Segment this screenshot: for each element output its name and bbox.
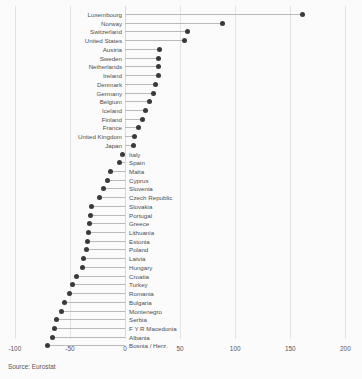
- chart-row[interactable]: Sweden: [0, 54, 362, 63]
- chart-row[interactable]: Austria: [0, 45, 362, 54]
- chart-row[interactable]: United Kingdom: [0, 132, 362, 141]
- chart-row[interactable]: France: [0, 123, 362, 132]
- data-point[interactable]: [74, 274, 79, 279]
- chart-row[interactable]: Portugal: [0, 211, 362, 220]
- data-point[interactable]: [157, 47, 162, 52]
- chart-row[interactable]: Ireland: [0, 71, 362, 80]
- data-point[interactable]: [156, 73, 161, 78]
- data-point[interactable]: [132, 134, 137, 139]
- chart-row[interactable]: Estonia: [0, 237, 362, 246]
- category-label: France: [0, 123, 122, 132]
- data-point[interactable]: [50, 335, 55, 340]
- data-point[interactable]: [84, 247, 89, 252]
- data-point[interactable]: [52, 326, 57, 331]
- data-point[interactable]: [81, 256, 86, 261]
- data-point[interactable]: [185, 29, 190, 34]
- chart-row[interactable]: Norway: [0, 19, 362, 28]
- data-point[interactable]: [67, 291, 72, 296]
- category-label: Denmark: [0, 80, 122, 89]
- data-point[interactable]: [156, 56, 161, 61]
- chart-row[interactable]: Germany: [0, 89, 362, 98]
- chart-row[interactable]: Cyprus: [0, 176, 362, 185]
- chart-row[interactable]: Netherlands: [0, 62, 362, 71]
- data-point[interactable]: [87, 221, 92, 226]
- data-point[interactable]: [117, 160, 122, 165]
- data-point[interactable]: [89, 204, 94, 209]
- chart-row[interactable]: Croatia: [0, 272, 362, 281]
- chart-row[interactable]: Greece: [0, 219, 362, 228]
- chart-row[interactable]: Denmark: [0, 80, 362, 89]
- chart-row[interactable]: Lithuania: [0, 228, 362, 237]
- data-point[interactable]: [182, 38, 187, 43]
- data-point[interactable]: [88, 213, 93, 218]
- plot-area: LuxembourgNorwaySwitzerlandUnited States…: [0, 0, 362, 345]
- chart-row[interactable]: F Y R Macedonia: [0, 324, 362, 333]
- data-point[interactable]: [136, 125, 141, 130]
- data-point[interactable]: [220, 21, 225, 26]
- data-point[interactable]: [85, 239, 90, 244]
- x-tick-label: -50: [50, 345, 90, 352]
- stem-line: [125, 40, 185, 41]
- chart-row[interactable]: Albania: [0, 333, 362, 342]
- data-point[interactable]: [300, 12, 305, 17]
- chart-row[interactable]: Hungary: [0, 263, 362, 272]
- chart-row[interactable]: Turkey: [0, 280, 362, 289]
- data-point[interactable]: [86, 230, 91, 235]
- category-label: Iceland: [0, 106, 122, 115]
- chart-row[interactable]: Belgium: [0, 97, 362, 106]
- category-label: Austria: [0, 45, 122, 54]
- stem-line: [125, 101, 149, 102]
- chart-row[interactable]: Luxembourg: [0, 10, 362, 19]
- stem-line: [125, 23, 222, 24]
- stem-line: [72, 284, 125, 285]
- chart-row[interactable]: Slovenia: [0, 184, 362, 193]
- chart-row[interactable]: Bulgaria: [0, 298, 362, 307]
- category-label: Italy: [129, 150, 140, 159]
- category-label: Albania: [129, 333, 150, 342]
- data-point[interactable]: [108, 169, 113, 174]
- category-label: Romania: [129, 289, 154, 298]
- chart-row[interactable]: Slovakia: [0, 202, 362, 211]
- chart-row[interactable]: Czech Republic: [0, 193, 362, 202]
- data-point[interactable]: [70, 282, 75, 287]
- data-point[interactable]: [105, 178, 110, 183]
- chart-row[interactable]: Romania: [0, 289, 362, 298]
- data-point[interactable]: [120, 152, 125, 157]
- category-label: Sweden: [0, 54, 122, 63]
- data-point[interactable]: [101, 186, 106, 191]
- stem-line: [125, 31, 188, 32]
- data-point[interactable]: [97, 195, 102, 200]
- data-point[interactable]: [80, 265, 85, 270]
- chart-row[interactable]: Malta: [0, 167, 362, 176]
- stem-line: [125, 58, 158, 59]
- chart-row[interactable]: Switzerland: [0, 27, 362, 36]
- data-point[interactable]: [147, 99, 152, 104]
- category-label: Latvia: [129, 254, 146, 263]
- data-point[interactable]: [153, 82, 158, 87]
- stem-line: [83, 258, 125, 259]
- chart-row[interactable]: Serbia: [0, 315, 362, 324]
- chart-row[interactable]: Montenegro: [0, 307, 362, 316]
- chart-row[interactable]: Spain: [0, 158, 362, 167]
- data-point[interactable]: [54, 317, 59, 322]
- chart-row[interactable]: Japan: [0, 141, 362, 150]
- chart-row[interactable]: Poland: [0, 245, 362, 254]
- category-label: Slovenia: [129, 184, 153, 193]
- chart-row[interactable]: Latvia: [0, 254, 362, 263]
- chart-row[interactable]: Italy: [0, 150, 362, 159]
- chart-row[interactable]: Iceland: [0, 106, 362, 115]
- stem-line: [125, 66, 158, 67]
- chart-row[interactable]: United States: [0, 36, 362, 45]
- data-point[interactable]: [151, 91, 156, 96]
- chart-row[interactable]: Finland: [0, 115, 362, 124]
- stem-line: [64, 302, 125, 303]
- category-label: Montenegro: [129, 307, 162, 316]
- stem-line: [125, 14, 302, 15]
- data-point[interactable]: [140, 117, 145, 122]
- data-point[interactable]: [62, 300, 67, 305]
- data-point[interactable]: [156, 64, 161, 69]
- data-point[interactable]: [143, 108, 148, 113]
- data-point[interactable]: [131, 143, 136, 148]
- data-point[interactable]: [59, 309, 64, 314]
- stem-line: [125, 49, 159, 50]
